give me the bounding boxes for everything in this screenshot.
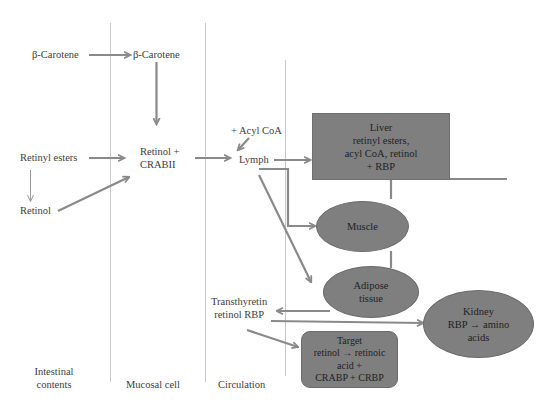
arrow-retinol-to-retinol-crabii [58,177,129,211]
node-kidney: Kidney RBP → amino acids [423,290,534,358]
node-target-line2: retinol → retinoic [314,347,386,360]
column-label-intestinal: Intestinal contents [22,365,86,391]
column-label-intestinal-line2: contents [22,378,86,391]
node-target-line3: acid + [337,360,362,373]
node-kidney-line2: RBP → amino [448,318,509,331]
node-liver: Liver retinyl esters, acyl CoA, retinol … [312,113,450,180]
node-adipose-line1: Adipose [354,279,389,292]
node-liver-line1: Liver [370,121,393,134]
node-liver-line4: + RBP [367,160,395,173]
column-label-circulation: Circulation [218,378,265,391]
arrow-transthyretin-to-kidney [271,321,423,323]
node-adipose: Adipose tissue [323,266,419,318]
arrow-acylcoa-to-lymph [238,138,249,150]
node-liver-line2: retinyl esters, [353,134,410,147]
column-label-mucosal: Mucosal cell [126,378,180,391]
node-target-line1: Target [337,335,362,348]
label-transthyretin-line2: retinol RBP [211,308,267,321]
arrow-transthyretin-to-target [247,330,298,347]
label-beta-carotene-intestinal: β-Carotene [32,48,79,61]
node-target-line4: CRABP + CRBP [315,372,384,385]
node-kidney-line1: Kidney [463,305,494,318]
node-muscle: Muscle [316,201,409,252]
node-liver-line3: acyl CoA, retinol [345,147,418,160]
label-beta-carotene-mucosal: β-Carotene [133,48,180,61]
label-retinol-crabii-line1: Retinol + [140,145,179,158]
node-adipose-line2: tissue [359,292,383,305]
label-lymph: Lymph [239,153,269,166]
label-acyl-coa: + Acyl CoA [231,124,282,137]
column-dividers [111,23,286,382]
node-muscle-line1: Muscle [347,220,378,233]
label-retinol: Retinol [20,204,51,217]
arrow-lymph-to-muscle [259,169,315,226]
label-transthyretin-line1: Transthyretin [211,295,267,308]
node-target: Target retinol → retinoic acid + CRABP +… [301,331,398,388]
label-retinol-crabii-line2: CRABII [140,158,179,171]
node-kidney-line3: acids [468,331,490,344]
label-retinyl-esters: Retinyl esters [20,151,77,164]
column-label-intestinal-line1: Intestinal [22,365,86,378]
label-transthyretin: Transthyretin retinol RBP [211,295,267,321]
label-retinol-crabii: Retinol + CRABII [140,145,179,171]
